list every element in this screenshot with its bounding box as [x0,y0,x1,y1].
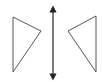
reflection-diagram [0,0,103,82]
right-triangle [68,16,96,72]
left-triangle [13,17,41,72]
